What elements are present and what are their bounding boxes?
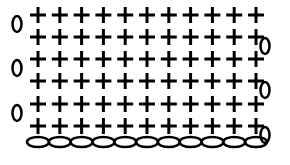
single-crochet-plus-icon [95, 73, 111, 89]
single-crochet-plus-icon [117, 51, 133, 67]
foundation-chain-oval-icon [27, 137, 49, 147]
single-crochet-plus-icon [183, 73, 199, 89]
single-crochet-plus-icon [139, 118, 155, 134]
single-crochet-plus-icon [161, 7, 177, 23]
single-crochet-plus-icon [30, 73, 46, 89]
chain-stitch-icon [261, 82, 270, 98]
foundation-chain-oval-icon [114, 137, 136, 147]
foundation-chain-oval-icon [49, 137, 71, 147]
single-crochet-plus-icon [204, 73, 220, 89]
single-crochet-plus-icon [226, 29, 242, 45]
single-crochet-plus-icon [117, 118, 133, 134]
chain-stitch-icon [261, 38, 270, 54]
single-crochet-plus-icon [226, 118, 242, 134]
single-crochet-plus-icon [161, 73, 177, 89]
crochet-chart [0, 0, 290, 165]
single-crochet-plus-icon [52, 51, 68, 67]
single-crochet-plus-icon [95, 29, 111, 45]
chain-stitch-icon [13, 60, 22, 76]
chain-stitch-icon [13, 105, 22, 121]
single-crochet-plus-icon [204, 29, 220, 45]
single-crochet-plus-icon [139, 51, 155, 67]
single-crochet-plus-icon [117, 73, 133, 89]
single-crochet-plus-icon [183, 7, 199, 23]
single-crochet-plus-icon [161, 118, 177, 134]
single-crochet-plus-icon [30, 118, 46, 134]
foundation-chain-oval-icon [158, 137, 180, 147]
single-crochet-plus-icon [161, 29, 177, 45]
single-crochet-plus-icon [30, 51, 46, 67]
chain-stitch-icon [13, 16, 22, 32]
single-crochet-plus-icon [30, 7, 46, 23]
single-crochet-plus-icon [74, 73, 90, 89]
single-crochet-plus-icon [226, 73, 242, 89]
single-crochet-plus-icon [183, 51, 199, 67]
single-crochet-plus-icon [139, 7, 155, 23]
single-crochet-plus-icon [204, 7, 220, 23]
single-crochet-plus-icon [95, 51, 111, 67]
foundation-chain-oval-icon [223, 137, 245, 147]
foundation-chain-oval-icon [136, 137, 158, 147]
single-crochet-plus-icon [95, 7, 111, 23]
single-crochet-plus-icon [226, 7, 242, 23]
single-crochet-plus-icon [161, 96, 177, 112]
single-crochet-plus-icon [95, 96, 111, 112]
single-crochet-plus-icon [74, 51, 90, 67]
single-crochet-plus-icon [248, 7, 264, 23]
single-crochet-plus-icon [117, 29, 133, 45]
single-crochet-plus-icon [74, 7, 90, 23]
single-crochet-plus-icon [226, 51, 242, 67]
single-crochet-plus-icon [30, 96, 46, 112]
foundation-chain-oval-icon [180, 137, 202, 147]
foundation-chain-oval-icon [201, 137, 223, 147]
single-crochet-plus-icon [183, 118, 199, 134]
single-crochet-plus-icon [139, 73, 155, 89]
single-crochet-plus-icon [52, 7, 68, 23]
single-crochet-plus-icon [117, 96, 133, 112]
single-crochet-plus-icon [74, 29, 90, 45]
single-crochet-plus-icon [30, 29, 46, 45]
single-crochet-plus-icon [226, 96, 242, 112]
single-crochet-plus-icon [183, 96, 199, 112]
single-crochet-plus-icon [74, 96, 90, 112]
single-crochet-plus-icon [95, 118, 111, 134]
single-crochet-plus-icon [52, 73, 68, 89]
single-crochet-plus-icon [52, 118, 68, 134]
single-crochet-plus-icon [204, 118, 220, 134]
single-crochet-plus-icon [183, 29, 199, 45]
single-crochet-plus-icon [117, 7, 133, 23]
single-crochet-plus-icon [248, 96, 264, 112]
single-crochet-plus-icon [52, 96, 68, 112]
single-crochet-stitches [30, 7, 264, 134]
single-crochet-plus-icon [161, 51, 177, 67]
single-crochet-plus-icon [204, 51, 220, 67]
single-crochet-plus-icon [139, 96, 155, 112]
single-crochet-plus-icon [204, 96, 220, 112]
foundation-chain-oval-icon [71, 137, 93, 147]
foundation-chain [27, 137, 267, 147]
single-crochet-plus-icon [52, 29, 68, 45]
single-crochet-plus-icon [74, 118, 90, 134]
single-crochet-plus-icon [139, 29, 155, 45]
foundation-chain-oval-icon [92, 137, 114, 147]
